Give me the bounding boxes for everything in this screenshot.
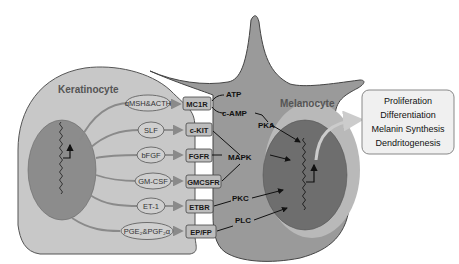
signal-atp: ATP bbox=[226, 90, 242, 99]
ligand-label: PGE₂&PGF₂α bbox=[124, 227, 171, 236]
receptor-ckit: c-KIT bbox=[186, 123, 212, 136]
signal-camp: c-AMP bbox=[222, 109, 248, 118]
receptor-fgfr: FGFR bbox=[186, 149, 212, 162]
signal-pkc: PKC bbox=[232, 194, 249, 203]
receptor-etbr: ETBR bbox=[186, 200, 213, 213]
receptor-label: EP/FP bbox=[190, 228, 212, 237]
outcomes-box: Proliferation Differentiation Melanin Sy… bbox=[362, 90, 454, 154]
melanogenesis-signaling-diagram: αMSH&ACTH SLF bFGF GM-CSF ET-1 PGE₂&PGF₂… bbox=[0, 0, 459, 264]
ligand-label: SLF bbox=[144, 126, 158, 135]
ligand-label: bFGF bbox=[141, 151, 161, 160]
signal-mapk: MAPK bbox=[228, 153, 252, 162]
receptor-label: ETBR bbox=[189, 203, 210, 212]
receptor-label: GMCSFR bbox=[187, 178, 220, 187]
receptor-label: FGFR bbox=[189, 152, 210, 161]
receptor-mc1r: MC1R bbox=[183, 97, 211, 110]
outcome-dendritogenesis: Dendritogenesis bbox=[375, 138, 441, 148]
ligand-amsh-acth: αMSH&ACTH bbox=[125, 95, 171, 111]
signal-plc: PLC bbox=[235, 216, 251, 225]
ligand-pge2-pgf2a: PGE₂&PGF₂α bbox=[121, 223, 173, 240]
ligand-label: αMSH&ACTH bbox=[125, 99, 171, 108]
ligand-bfgf: bFGF bbox=[137, 147, 165, 163]
outcome-proliferation: Proliferation bbox=[384, 96, 432, 106]
receptor-epfp: EP/FP bbox=[186, 225, 216, 238]
ligand-et1: ET-1 bbox=[137, 198, 165, 214]
ligand-slf: SLF bbox=[138, 122, 164, 138]
receptor-label: c-KIT bbox=[190, 126, 209, 135]
keratinocyte-label: Keratinocyte bbox=[58, 84, 119, 95]
melanocyte-label: Melanocyte bbox=[280, 98, 335, 109]
receptor-label: MC1R bbox=[186, 100, 208, 109]
signal-pka: PKA bbox=[258, 121, 275, 130]
ligand-gm-csf: GM-CSF bbox=[135, 173, 171, 189]
ligand-label: GM-CSF bbox=[138, 177, 168, 186]
outcome-melanin-synthesis: Melanin Synthesis bbox=[371, 124, 445, 134]
outcome-differentiation: Differentiation bbox=[380, 110, 435, 120]
receptor-gmcsfr: GMCSFR bbox=[186, 175, 221, 188]
ligand-label: ET-1 bbox=[143, 202, 159, 211]
